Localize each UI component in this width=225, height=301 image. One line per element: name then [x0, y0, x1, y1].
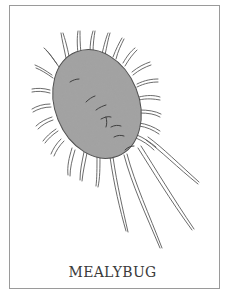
- illustration-caption: MEALYBUG: [0, 264, 225, 280]
- mealybug-illustration: [0, 0, 225, 301]
- body: [37, 36, 157, 171]
